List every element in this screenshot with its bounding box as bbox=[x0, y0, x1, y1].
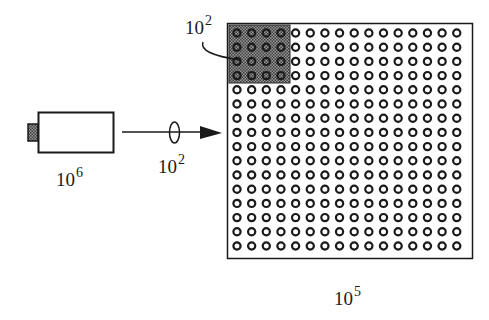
label-base: 10 bbox=[334, 288, 353, 309]
sensor-array-label: 105 bbox=[334, 289, 361, 308]
beam-arrow bbox=[122, 126, 222, 139]
highlight-block bbox=[229, 25, 290, 83]
camera-body bbox=[39, 113, 114, 153]
label-exponent: 2 bbox=[205, 13, 212, 28]
camera-icon bbox=[28, 113, 114, 153]
label-exponent: 2 bbox=[178, 152, 185, 167]
camera-label: 106 bbox=[56, 170, 83, 189]
beam-label: 102 bbox=[158, 157, 185, 176]
camera-lens-block bbox=[28, 124, 38, 141]
label-base: 10 bbox=[185, 17, 204, 38]
label-base: 10 bbox=[158, 156, 177, 177]
arrow-head-icon bbox=[200, 126, 222, 139]
highlight-block-label: 102 bbox=[185, 18, 212, 37]
label-exponent: 5 bbox=[354, 284, 361, 299]
label-base: 10 bbox=[56, 169, 75, 190]
label-exponent: 6 bbox=[76, 165, 83, 180]
diagram-canvas bbox=[0, 0, 489, 320]
